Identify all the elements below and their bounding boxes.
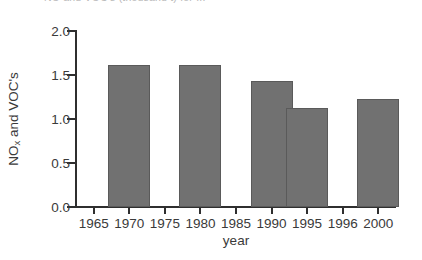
- y-axis-title-main: NO: [6, 146, 21, 166]
- x-axis-tick-label: 1965: [79, 216, 109, 231]
- x-axis-tick-label: 1975: [150, 216, 180, 231]
- bar: [108, 65, 150, 207]
- x-axis-tick-label: 1980: [185, 216, 215, 231]
- x-axis-tick-label: 1990: [257, 216, 287, 231]
- y-axis-tick-label: 1.0: [51, 112, 70, 127]
- x-axis-tick: [128, 207, 130, 214]
- x-axis-tick: [199, 207, 201, 214]
- x-axis-title: year: [223, 233, 249, 248]
- x-axis-tick: [271, 207, 273, 214]
- bar: [357, 99, 399, 207]
- x-axis-tick-label: 1995: [292, 216, 322, 231]
- x-axis-tick: [235, 207, 237, 214]
- plot-area: 2.01.51.00.50.01965197019751980198519901…: [76, 31, 396, 207]
- bar: [286, 108, 328, 207]
- x-axis-tick-label: 1985: [221, 216, 251, 231]
- bar: [179, 65, 221, 207]
- x-axis-tick: [93, 207, 95, 214]
- x-axis-tick: [377, 207, 379, 214]
- clipped-chart-title: NO and VOC's (thousand t) for ...: [44, 0, 414, 3]
- y-axis-tick-label: 2.0: [51, 24, 70, 39]
- x-axis-tick: [164, 207, 166, 214]
- x-axis-tick: [342, 207, 344, 214]
- y-axis-tick-label: 0.0: [51, 200, 70, 215]
- y-axis-tick-label: 0.5: [51, 156, 70, 171]
- x-axis-tick-label: 1996: [328, 216, 358, 231]
- x-axis-tick-label: 1970: [114, 216, 144, 231]
- y-axis-title-rest: and VOC's: [6, 72, 21, 141]
- y-axis-title-subscript: x: [11, 141, 22, 146]
- y-axis-title: NOx and VOC's: [6, 72, 22, 166]
- x-axis-tick-label: 2000: [363, 216, 393, 231]
- y-axis-tick-label: 1.5: [51, 68, 70, 83]
- x-axis-tick: [306, 207, 308, 214]
